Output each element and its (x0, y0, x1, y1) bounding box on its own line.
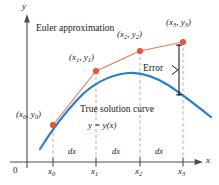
euler-method-diagram: y x 0 Euler approximation True solution … (0, 0, 219, 185)
x-tick-label-3: x3 (178, 167, 185, 177)
x-tick-label-1: x1 (91, 167, 98, 177)
euler-approximation-label: Euler approximation (36, 24, 114, 34)
step-label-dx-2: dx (155, 147, 163, 156)
origin-label: 0 (13, 166, 18, 175)
x-axis (10, 159, 203, 165)
point-label-x0-y0: (x0, y0) (16, 110, 41, 120)
step-label-dx-1: dx (112, 147, 120, 156)
y-axis (24, 14, 30, 168)
point-label-x3-y3: (x3, y3) (166, 18, 191, 28)
x-tick-label-0: x0 (48, 167, 55, 177)
step-label-dx-0: dx (68, 147, 76, 156)
error-label: Error (143, 64, 163, 74)
y-axis-label: y (22, 2, 26, 11)
true-solution-curve-label: True solution curve (80, 105, 154, 115)
point-label-x1-y1: (x1, y1) (69, 53, 94, 63)
x-tick-label-2: x2 (135, 167, 142, 177)
point-label-x2-y2: (x2, y2) (117, 30, 142, 40)
true-solution-equation-label: y = y(x) (88, 121, 117, 130)
x-axis-label: x (206, 156, 210, 165)
